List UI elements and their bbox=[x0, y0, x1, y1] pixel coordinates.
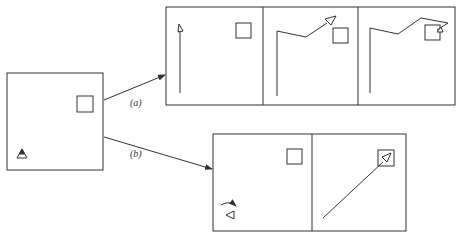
branch-b-strip bbox=[213, 134, 406, 231]
branch-a-panel-3 bbox=[370, 18, 448, 93]
path bbox=[370, 18, 448, 93]
navigation-diagram bbox=[0, 0, 460, 236]
agent-triangle-icon bbox=[17, 149, 27, 158]
source-panel bbox=[7, 73, 103, 170]
path bbox=[277, 23, 327, 96]
branch-a-panel-2 bbox=[277, 16, 348, 96]
branch-b-panel-2 bbox=[323, 150, 394, 218]
agent-triangle-icon bbox=[178, 24, 183, 32]
agent-triangle-icon bbox=[226, 211, 234, 219]
target-box bbox=[236, 23, 251, 38]
branch-b-panel-1 bbox=[221, 149, 302, 219]
agent-triangle-icon bbox=[382, 153, 391, 162]
target-box bbox=[77, 96, 93, 112]
branch-a-panel-1 bbox=[178, 23, 251, 93]
target-box bbox=[287, 149, 302, 164]
branch-a-label: (a) bbox=[130, 97, 142, 108]
path bbox=[323, 162, 383, 218]
branch-b-arrow bbox=[104, 137, 212, 169]
rotation-arrow-icon bbox=[221, 203, 236, 206]
branch-b-label: (b) bbox=[130, 148, 142, 159]
branch-a-strip bbox=[166, 7, 455, 105]
target-box bbox=[333, 28, 348, 43]
